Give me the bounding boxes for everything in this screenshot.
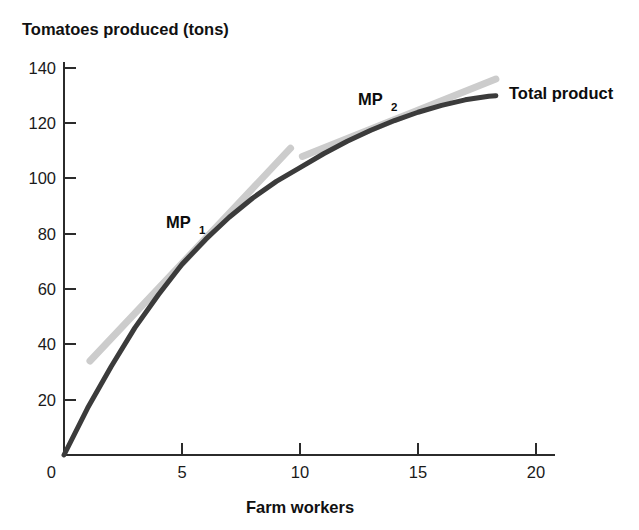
x-tick-label-15: 15 [409, 463, 427, 481]
y-tick-label-20: 20 [38, 391, 56, 409]
mp2-subscript: 2 [391, 101, 397, 113]
total-product-series-label: Total product [509, 84, 614, 102]
mp1-subscript: 1 [199, 224, 206, 236]
mp2-label: MP [358, 90, 383, 108]
y-tick-label-40: 40 [38, 335, 56, 353]
y-tick-label-80: 80 [38, 225, 56, 243]
chart-container: Tomatoes produced (tons) 140 120 100 80 … [0, 0, 639, 530]
total-product-chart: Tomatoes produced (tons) 140 120 100 80 … [0, 0, 639, 530]
x-axis-title: Farm workers [246, 498, 354, 516]
y-tick-label-60: 60 [38, 280, 56, 298]
mp1-label: MP [166, 213, 191, 231]
x-tick-label-5: 5 [177, 463, 186, 481]
y-tick-label-120: 120 [28, 114, 56, 132]
y-tick-label-100: 100 [28, 169, 56, 187]
x-tick-label-20: 20 [527, 463, 545, 481]
x-tick-label-10: 10 [291, 463, 309, 481]
y-axis-title: Tomatoes produced (tons) [22, 20, 229, 38]
y-tick-label-0: 0 [47, 463, 56, 481]
chart-background [0, 0, 639, 530]
y-tick-label-140: 140 [28, 59, 56, 77]
